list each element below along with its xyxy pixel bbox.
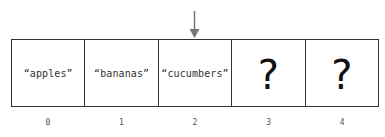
- index-label-3: 3: [232, 118, 306, 127]
- array-cell-0: “apples”: [12, 40, 85, 106]
- index-label-0: 0: [11, 118, 85, 127]
- down-arrow-icon: [188, 11, 201, 38]
- array-cell-3-unknown: ?: [232, 40, 305, 106]
- array-cell-2: “cucumbers”: [159, 40, 232, 106]
- index-label-1: 1: [85, 118, 159, 127]
- array-cell-1: “bananas”: [85, 40, 158, 106]
- index-label-4: 4: [305, 118, 379, 127]
- index-label-2: 2: [158, 118, 232, 127]
- array-indices: 0 1 2 3 4: [11, 118, 379, 127]
- array-cell-4-unknown: ?: [306, 40, 378, 106]
- array-diagram: “apples” “bananas” “cucumbers” ? ?: [11, 39, 379, 107]
